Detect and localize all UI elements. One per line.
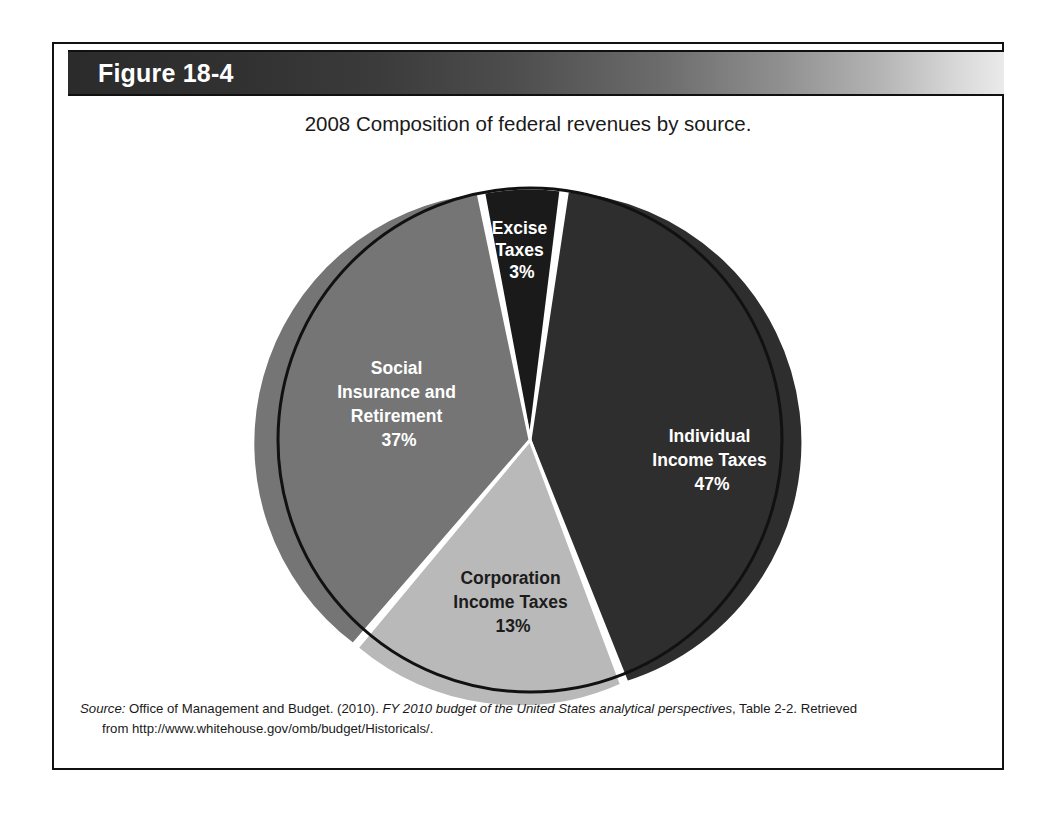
pie-label-corporation: Corporation Income Taxes 13% — [453, 568, 572, 636]
pie-label-social-line3: Retirement — [351, 406, 443, 426]
pie-label-social-value: 37% — [381, 430, 416, 450]
pie-label-corporation-line1: Corporation — [460, 568, 560, 588]
pie-label-excise-line2: Taxes — [495, 240, 544, 260]
figure-subtitle: 2008 Composition of federal revenues by … — [54, 112, 1002, 136]
pie-label-corporation-line2: Income Taxes — [453, 592, 568, 612]
pie-label-individual-line1: Individual — [669, 426, 751, 446]
pie-outline — [278, 188, 782, 692]
pie-label-individual: Individual Income Taxes 47% — [652, 426, 771, 494]
pie-label-social-line1: Social — [371, 358, 423, 378]
pie-label-excise-value: 3% — [509, 262, 535, 282]
pie-slice-individual[interactable] — [530, 191, 803, 683]
pie-chart-svg: Excise Taxes 3% Individual Income Taxes … — [54, 44, 1002, 768]
pie-chart: Excise Taxes 3% Individual Income Taxes … — [54, 44, 1002, 768]
pie-label-excise: Excise Taxes 3% — [492, 218, 552, 282]
source-prefix: Source: — [80, 701, 125, 716]
pie-label-social: Social Insurance and Retirement 37% — [337, 358, 461, 450]
pie-label-individual-value: 47% — [694, 474, 729, 494]
pie-label-individual-line2: Income Taxes — [652, 450, 767, 470]
source-text-1: Office of Management and Budget. (2010). — [125, 701, 382, 716]
source-citation: Source: Office of Management and Budget.… — [80, 699, 982, 740]
pie-label-excise-line1: Excise — [492, 218, 548, 238]
figure-number-label: Figure 18-4 — [98, 59, 234, 88]
pie-label-social-line2: Insurance and — [337, 382, 456, 402]
source-text-2: , Table 2-2. Retrieved — [732, 701, 857, 716]
source-url-line: from http://www.whitehouse.gov/omb/budge… — [80, 719, 982, 739]
pie-slice-social[interactable] — [253, 193, 530, 645]
figure-header-band: Figure 18-4 — [68, 50, 1004, 96]
pie-slice-excise[interactable] — [484, 188, 561, 440]
pie-label-corporation-value: 13% — [495, 616, 530, 636]
pie-slice-corporation[interactable] — [357, 440, 622, 707]
source-publication-title: FY 2010 budget of the United States anal… — [383, 701, 732, 716]
figure-frame: Figure 18-4 2008 Composition of federal … — [52, 42, 1004, 770]
